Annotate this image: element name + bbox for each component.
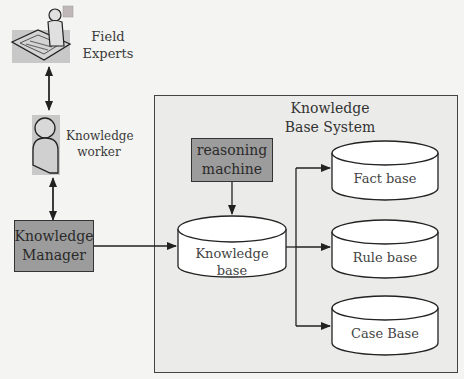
rule-base-label: Rule base — [332, 249, 438, 266]
knowledge-manager-line1: Knowledge — [15, 227, 94, 246]
knowledge-base-label: Knowledge base — [180, 245, 284, 279]
knowledge-base-line1: Knowledge — [180, 245, 284, 262]
knowledge-manager-box: Knowledge Manager — [14, 220, 94, 272]
knowledge-base-line2: base — [180, 262, 284, 279]
field-experts-label-line1: Field — [78, 28, 138, 45]
case-base-label: Case Base — [332, 325, 438, 342]
reasoning-machine-box: reasoning machine — [191, 138, 273, 182]
knowledge-worker-label: Knowledge worker — [66, 128, 132, 160]
reasoning-machine-line1: reasoning — [197, 141, 267, 160]
field-experts-label-line2: Experts — [78, 45, 138, 62]
knowledge-manager-line2: Manager — [15, 246, 94, 265]
knowledge-worker-label-line2: worker — [66, 144, 132, 160]
reasoning-machine-line2: machine — [197, 160, 267, 179]
fact-base-label: Fact base — [332, 170, 438, 187]
system-title: Knowledge Base System — [270, 99, 390, 137]
system-title-line2: Base System — [270, 118, 390, 137]
knowledge-worker-label-line1: Knowledge — [66, 128, 132, 144]
field-experts-label: Field Experts — [78, 28, 138, 62]
system-title-line1: Knowledge — [270, 99, 390, 118]
